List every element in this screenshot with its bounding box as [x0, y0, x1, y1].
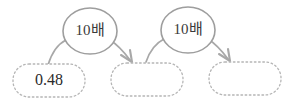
operation-bubble-2: 10배	[161, 7, 215, 53]
value-box-3[interactable]	[209, 62, 281, 95]
operation-label-2: 10배	[174, 21, 203, 37]
operation-bubble-1: 10배	[63, 8, 117, 54]
operation-label-1: 10배	[76, 22, 105, 38]
value-box-1[interactable]: 0.48	[13, 64, 85, 97]
value-box-1-label: 0.48	[35, 71, 63, 88]
multiply-by-ten-flow-diagram: 10배 10배 0.48	[0, 0, 288, 104]
value-box-3-outline	[209, 62, 281, 95]
value-box-2-outline	[111, 63, 183, 96]
diagram-canvas: 10배 10배 0.48	[0, 0, 288, 104]
value-box-2[interactable]	[111, 63, 183, 96]
